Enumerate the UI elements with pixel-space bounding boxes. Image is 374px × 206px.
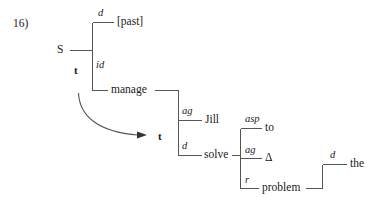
node-solve: solve — [204, 149, 228, 161]
linguistic-tree-figure: 16) S d [past] t id manage t ag Jill d s… — [0, 0, 374, 206]
node-jill: Jill — [205, 114, 219, 126]
node-past: [past] — [117, 16, 143, 28]
relation-d-solve: d — [182, 141, 187, 152]
relation-r-problem: r — [245, 175, 249, 186]
relation-ag-delta: ag — [245, 145, 256, 156]
node-problem: problem — [262, 182, 300, 194]
node-delta: Δ — [265, 152, 272, 164]
example-number: 16) — [13, 18, 28, 30]
relation-d-past: d — [98, 8, 103, 19]
relation-d-the: d — [330, 150, 335, 161]
node-to: to — [265, 122, 274, 134]
node-t-matrix: t — [74, 65, 78, 76]
tree-lines — [0, 0, 374, 206]
node-s: S — [57, 44, 63, 56]
relation-asp-to: asp — [245, 114, 260, 125]
movement-arrowhead — [137, 132, 147, 139]
node-t-embedded: t — [158, 131, 162, 142]
movement-arrow-path — [79, 93, 139, 135]
relation-id-manage: id — [96, 60, 104, 71]
node-manage: manage — [111, 84, 147, 96]
node-the: the — [350, 158, 364, 170]
movement-arrow — [79, 93, 139, 135]
relation-ag-jill: ag — [182, 106, 193, 117]
